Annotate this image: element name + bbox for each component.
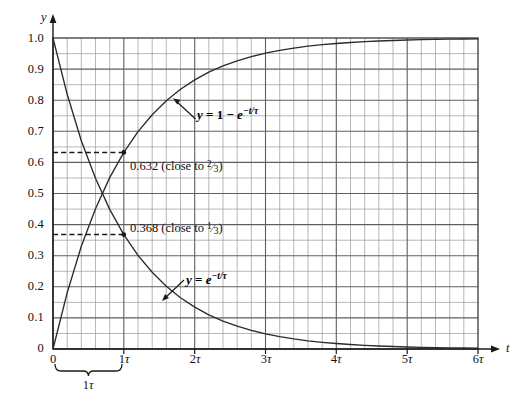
y-tick-label-1: 1.0 bbox=[14, 31, 44, 46]
x-tick-unit-3: τ bbox=[267, 352, 271, 366]
y-tick-label-10: 0.1 bbox=[14, 310, 44, 325]
rising-eq-operator: = 1 − bbox=[203, 107, 237, 122]
y-tick-label-8: 0.3 bbox=[14, 248, 44, 263]
rising-eq-exponent: −t/τ bbox=[243, 106, 258, 116]
x-tick-unit-2: τ bbox=[196, 352, 200, 366]
y-axis-line bbox=[50, 14, 57, 349]
annotation-0368-fraction: 1⁄3 bbox=[207, 221, 218, 236]
x-axis-ticks bbox=[124, 349, 478, 354]
annotation-0368: 0.368 (close to 1⁄3) bbox=[130, 221, 223, 236]
x-tick-label-4: 4τ bbox=[319, 352, 353, 367]
x-tick-label-2: 2τ bbox=[178, 352, 212, 367]
annotation-0368-text-before: (close to bbox=[158, 221, 207, 235]
x-tick-unit-5: τ bbox=[408, 352, 412, 366]
x-tick-unit-1: τ bbox=[125, 352, 129, 366]
y-axis-title: y bbox=[41, 10, 47, 25]
y-tick-label-6: 0.5 bbox=[14, 186, 44, 201]
x-tick-unit-4: τ bbox=[337, 352, 341, 366]
x-tick-value-0: 0 bbox=[50, 352, 56, 366]
y-tick-label-7: 0.4 bbox=[14, 217, 44, 232]
annotation-0632-text-after: ) bbox=[218, 159, 222, 173]
exponential-decay-chart: 1.0 0.9 0.8 0.7 0.6 0.5 0.4 0.3 0.2 0.1 … bbox=[0, 0, 523, 404]
tau-span-unit: τ bbox=[89, 378, 93, 392]
y-tick-label-4: 0.7 bbox=[14, 124, 44, 139]
y-tick-label-2: 0.9 bbox=[14, 62, 44, 77]
annotation-0368-text-after: ) bbox=[218, 221, 222, 235]
x-tick-label-1: 1τ bbox=[107, 352, 141, 367]
tau-span-label: 1τ bbox=[68, 378, 108, 393]
annotation-0632: 0.632 (close to 2⁄3) bbox=[130, 159, 223, 174]
x-tick-label-0: 0 bbox=[36, 352, 70, 367]
x-tick-unit-6: τ bbox=[479, 352, 483, 366]
annotation-0632-text-before: (close to bbox=[158, 159, 207, 173]
falling-curve-equation: y = e−t/τ bbox=[186, 271, 227, 288]
y-tick-label-9: 0.2 bbox=[14, 279, 44, 294]
y-tick-label-3: 0.8 bbox=[14, 93, 44, 108]
y-tick-label-5: 0.6 bbox=[14, 155, 44, 170]
x-tick-label-6: 6τ bbox=[461, 352, 495, 367]
marker-point-0632 bbox=[121, 150, 126, 155]
annotation-0368-numerator: 1 bbox=[207, 221, 212, 231]
x-tick-label-5: 5τ bbox=[390, 352, 424, 367]
annotation-0632-numerator: 2 bbox=[207, 159, 212, 169]
falling-eq-exponent: −t/τ bbox=[211, 271, 226, 281]
annotation-0368-value: 0.368 bbox=[130, 221, 158, 235]
chart-canvas bbox=[0, 0, 523, 404]
marker-point-0368 bbox=[121, 232, 126, 237]
annotation-0632-fraction: 2⁄3 bbox=[207, 159, 218, 174]
falling-eq-operator: = bbox=[192, 272, 206, 287]
rising-curve-equation: y = 1 − e−t/τ bbox=[197, 106, 258, 123]
x-axis-title: t bbox=[506, 341, 509, 356]
x-tick-label-3: 3τ bbox=[249, 352, 283, 367]
annotation-0632-value: 0.632 bbox=[130, 159, 158, 173]
